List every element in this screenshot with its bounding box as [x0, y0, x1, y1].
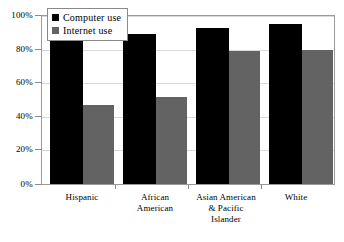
legend-item-internet-use: Internet use [52, 24, 121, 37]
bars-layer [42, 16, 334, 184]
y-axis-label-40: 40% [0, 112, 33, 121]
y-axis-label-20: 20% [0, 145, 33, 154]
bar-computer-use-hispanic [50, 41, 83, 184]
x-tick-2 [188, 185, 189, 189]
bar-group-asian-american-pacific-islander [196, 16, 260, 184]
bar-chart: 100% 80% 60% 40% 20% 0% Hispanic African… [0, 0, 344, 242]
x-axis-label-asian-american-pacific-islander: Asian American & Pacific Islander [196, 192, 256, 225]
bar-computer-use-african-american [123, 34, 156, 184]
bar-internet-use-asian-american-pacific-islander [229, 51, 260, 184]
bar-group-african-american [123, 16, 187, 184]
y-tick-20 [35, 149, 41, 150]
y-axis-label-100: 100% [0, 11, 33, 20]
bar-computer-use-white [269, 24, 302, 184]
y-axis-label-0: 0% [0, 180, 33, 189]
y-tick-0 [35, 184, 41, 185]
bar-internet-use-hispanic [83, 105, 114, 184]
bar-computer-use-asian-american-pacific-islander [196, 28, 229, 184]
bar-group-white [269, 16, 333, 184]
y-axis-label-80: 80% [0, 45, 33, 54]
y-tick-80 [35, 49, 41, 50]
y-tick-60 [35, 82, 41, 83]
bar-group-hispanic [50, 16, 114, 184]
legend: Computer use Internet use [47, 8, 128, 41]
x-tick-1 [115, 185, 116, 189]
black-square-icon [52, 14, 59, 21]
y-tick-40 [35, 116, 41, 117]
y-axis-label-60: 60% [0, 78, 33, 87]
bar-internet-use-african-american [156, 97, 187, 184]
bar-internet-use-white [302, 50, 333, 184]
x-tick-3 [261, 185, 262, 189]
y-tick-100 [35, 15, 41, 16]
gray-square-icon [52, 27, 59, 34]
x-axis-label-african-american: African American [124, 192, 186, 214]
x-axis-label-hispanic: Hispanic [48, 192, 116, 203]
x-axis-label-white: White [265, 192, 327, 203]
legend-item-computer-use: Computer use [52, 11, 121, 24]
legend-label-computer-use: Computer use [63, 13, 121, 23]
legend-label-internet-use: Internet use [63, 26, 112, 36]
